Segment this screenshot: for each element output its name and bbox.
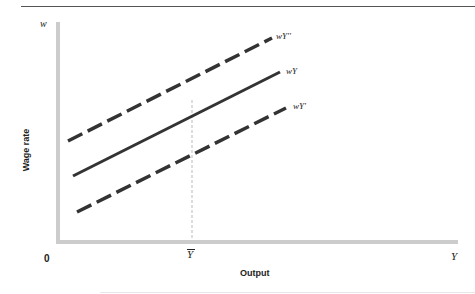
x-axis-end-symbol: Y <box>451 250 457 262</box>
y-axis <box>56 22 60 244</box>
origin-label: 0 <box>44 253 50 264</box>
ybar-tick-label: Y <box>187 248 193 260</box>
curve-wYpp <box>68 38 272 141</box>
curve-wYp <box>77 108 286 212</box>
y-axis-symbol: w <box>40 18 47 29</box>
curve-label-wYp: wY' <box>293 101 306 111</box>
curve-label-wY: wY <box>286 66 297 76</box>
x-axis-label: Output <box>240 268 270 278</box>
bottom-rule <box>100 292 475 293</box>
x-axis <box>56 240 458 244</box>
curve-label-wYpp: wY'' <box>276 31 291 41</box>
y-axis-label: Wage rate <box>21 129 31 172</box>
diagram-canvas <box>0 0 475 294</box>
